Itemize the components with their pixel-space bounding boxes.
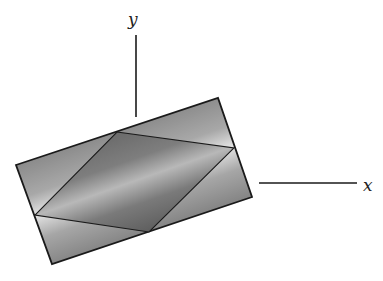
diagram-figure: y x [0,0,383,281]
y-axis-label: y [127,9,138,29]
x-axis-label: x [363,175,373,195]
